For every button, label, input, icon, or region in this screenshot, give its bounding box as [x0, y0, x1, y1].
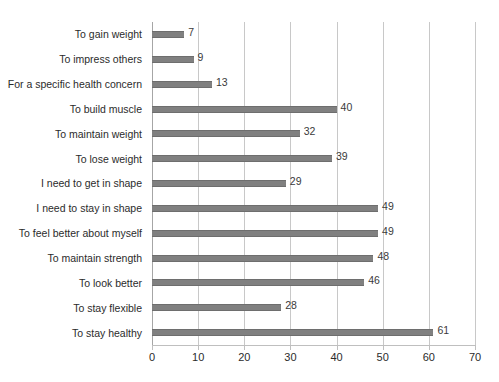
bar-row: 46 [152, 270, 475, 295]
bar-value-label: 32 [304, 125, 316, 138]
category-label-text: To maintain weight [55, 128, 147, 140]
category-label-text: To stay healthy [72, 327, 147, 339]
category-label-text: I need to stay in shape [36, 202, 147, 214]
axis-tick-label: 0 [149, 350, 155, 364]
category-label-text: To gain weight [75, 28, 147, 40]
bar-value-label: 49 [382, 225, 394, 238]
bar-value-label: 28 [285, 299, 297, 312]
category-label: To look better [0, 270, 147, 295]
bar[interactable] [152, 155, 332, 162]
axis-tick-label: 40 [330, 350, 342, 364]
bar-value-label: 7 [188, 26, 194, 39]
category-label-text: To feel better about myself [19, 227, 147, 239]
bar[interactable] [152, 279, 364, 286]
category-label: I need to get in shape [0, 171, 147, 196]
axis-tick-label: 70 [469, 350, 481, 364]
category-label: To lose weight [0, 146, 147, 171]
bar-row: 13 [152, 72, 475, 97]
bar-row: 9 [152, 47, 475, 72]
category-label: To impress others [0, 47, 147, 72]
bar[interactable] [152, 205, 378, 212]
bar-value-label: 48 [377, 250, 389, 263]
category-label-text: To stay flexible [73, 302, 147, 314]
category-label: To stay flexible [0, 295, 147, 320]
category-label: To build muscle [0, 97, 147, 122]
bar-row: 49 [152, 221, 475, 246]
bar-row: 48 [152, 246, 475, 271]
bar-value-label: 9 [198, 51, 204, 64]
bar[interactable] [152, 56, 194, 63]
gridline [475, 22, 476, 345]
plot-area: 791340323929494948462861 [152, 22, 475, 345]
category-label: To feel better about myself [0, 221, 147, 246]
bar-row: 7 [152, 22, 475, 47]
category-label-text: To maintain strength [47, 252, 147, 264]
category-label: For a specific health concern [0, 72, 147, 97]
bar[interactable] [152, 329, 433, 336]
bar-row: 32 [152, 121, 475, 146]
category-label: To maintain weight [0, 121, 147, 146]
axis-tick-label: 50 [377, 350, 389, 364]
axis-tick-label: 30 [284, 350, 296, 364]
bar-value-label: 39 [336, 150, 348, 163]
bar-chart: To gain weightTo impress othersFor a spe… [0, 0, 499, 382]
value-axis-line [152, 345, 476, 346]
bar-row: 49 [152, 196, 475, 221]
category-label-text: For a specific health concern [8, 78, 147, 90]
bar-row: 40 [152, 97, 475, 122]
bar-row: 28 [152, 295, 475, 320]
category-label-text: To look better [79, 277, 147, 289]
category-label: To maintain strength [0, 246, 147, 271]
category-label: To stay healthy [0, 320, 147, 345]
value-axis-tick-labels: 010203040506070 [0, 350, 499, 368]
bar-value-label: 13 [216, 76, 228, 89]
bar-value-label: 40 [341, 101, 353, 114]
category-label-text: I need to get in shape [41, 177, 147, 189]
bar[interactable] [152, 180, 286, 187]
category-axis-labels: To gain weightTo impress othersFor a spe… [0, 22, 147, 345]
bar-row: 61 [152, 320, 475, 345]
bar-value-label: 29 [290, 175, 302, 188]
bar-value-label: 49 [382, 200, 394, 213]
bar[interactable] [152, 106, 337, 113]
category-label-text: To lose weight [75, 153, 147, 165]
bar-row: 29 [152, 171, 475, 196]
bar-value-label: 61 [437, 324, 449, 337]
axis-tick-label: 20 [238, 350, 250, 364]
bar[interactable] [152, 81, 212, 88]
bar[interactable] [152, 255, 373, 262]
category-label: To gain weight [0, 22, 147, 47]
category-label-text: To build muscle [70, 103, 147, 115]
category-label: I need to stay in shape [0, 196, 147, 221]
category-label-text: To impress others [59, 53, 147, 65]
bar-row: 39 [152, 146, 475, 171]
bar[interactable] [152, 31, 184, 38]
bar[interactable] [152, 304, 281, 311]
bar-value-label: 46 [368, 274, 380, 287]
axis-tick-label: 10 [192, 350, 204, 364]
bar[interactable] [152, 230, 378, 237]
axis-tick-label: 60 [423, 350, 435, 364]
bar[interactable] [152, 130, 300, 137]
